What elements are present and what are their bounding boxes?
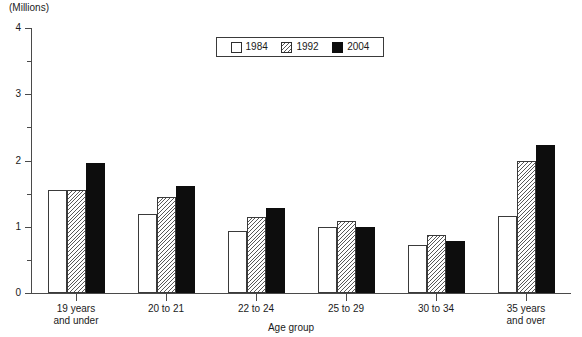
y-axis-tick-label: 1 bbox=[7, 222, 21, 232]
y-axis-minor-tick bbox=[27, 127, 31, 128]
bar-1992-5 bbox=[517, 161, 536, 293]
legend-swatch-1992 bbox=[281, 42, 292, 53]
legend-item-2004: 2004 bbox=[332, 42, 369, 53]
y-axis-tick-label: 0 bbox=[7, 288, 21, 298]
x-axis-tick bbox=[166, 294, 167, 301]
y-axis-tick-label: 4 bbox=[7, 23, 21, 33]
chart-legend: 198419922004 bbox=[216, 37, 384, 57]
y-axis-tick bbox=[25, 161, 31, 162]
units-caption: (Millions) bbox=[9, 2, 49, 13]
legend-item-1984: 1984 bbox=[231, 42, 268, 53]
y-axis-minor-tick bbox=[27, 194, 31, 195]
y-axis-tick bbox=[25, 28, 31, 29]
x-axis-line bbox=[31, 293, 571, 294]
x-axis-title: Age group bbox=[0, 322, 582, 333]
bar-1984-0 bbox=[48, 190, 67, 293]
bar-1992-1 bbox=[157, 197, 176, 293]
bar-1992-4 bbox=[427, 235, 446, 293]
y-axis-tick-label: 3 bbox=[7, 89, 21, 99]
x-axis-tick bbox=[436, 294, 437, 301]
y-axis-line bbox=[31, 28, 32, 294]
bar-2004-1 bbox=[176, 186, 195, 293]
legend-label-1984: 1984 bbox=[246, 42, 268, 52]
legend-label-1992: 1992 bbox=[296, 42, 318, 52]
bar-2004-2 bbox=[266, 208, 285, 293]
bar-1984-1 bbox=[138, 214, 157, 294]
x-axis-category-label: 22 to 24 bbox=[211, 303, 301, 315]
y-axis-tick bbox=[25, 94, 31, 95]
legend-item-1992: 1992 bbox=[281, 42, 318, 53]
y-axis-tick bbox=[25, 293, 31, 294]
y-axis-minor-tick bbox=[27, 61, 31, 62]
bar-1984-2 bbox=[228, 231, 247, 293]
x-axis-tick bbox=[256, 294, 257, 301]
y-axis-tick-label: 2 bbox=[7, 156, 21, 166]
x-axis-category-label: 20 to 21 bbox=[121, 303, 211, 315]
bar-1992-2 bbox=[247, 217, 266, 293]
chart-title bbox=[120, 0, 480, 3]
bar-1984-3 bbox=[318, 227, 337, 293]
x-axis-tick bbox=[346, 294, 347, 301]
x-axis-category-label: 30 to 34 bbox=[391, 303, 481, 315]
x-axis-tick bbox=[526, 294, 527, 301]
bar-2004-4 bbox=[446, 241, 465, 293]
bar-1984-5 bbox=[498, 216, 517, 293]
legend-swatch-2004 bbox=[332, 42, 343, 53]
bar-chart: (Millions) 01234 19 years and under20 to… bbox=[0, 0, 582, 337]
bar-1992-0 bbox=[67, 190, 86, 293]
y-axis-tick bbox=[25, 227, 31, 228]
y-axis-minor-tick bbox=[27, 260, 31, 261]
bar-1992-3 bbox=[337, 221, 356, 293]
bar-2004-5 bbox=[536, 145, 555, 293]
bar-2004-0 bbox=[86, 163, 105, 294]
x-axis-tick bbox=[76, 294, 77, 301]
x-axis-category-label: 25 to 29 bbox=[301, 303, 391, 315]
bar-1984-4 bbox=[408, 245, 427, 293]
plot-area: 01234 bbox=[31, 28, 571, 293]
legend-label-2004: 2004 bbox=[347, 42, 369, 52]
bar-2004-3 bbox=[356, 227, 375, 293]
legend-swatch-1984 bbox=[231, 42, 242, 53]
